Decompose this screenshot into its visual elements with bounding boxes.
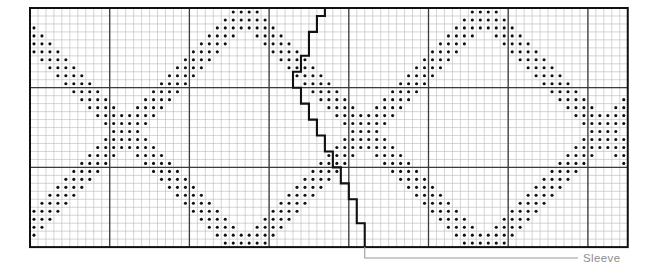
stitch-dot <box>280 226 283 229</box>
stitch-dot <box>176 186 179 189</box>
stitch-dot <box>471 34 474 37</box>
chart-background <box>0 0 646 277</box>
stitch-dot <box>550 178 553 181</box>
stitch-dot <box>136 114 139 117</box>
stitch-dot <box>136 146 139 149</box>
stitch-dot <box>471 18 474 21</box>
stitch-dot <box>614 154 617 157</box>
stitch-dot <box>479 234 482 237</box>
stitch-dot <box>192 66 195 69</box>
stitch-dot <box>415 90 418 93</box>
stitch-dot <box>112 130 115 133</box>
stitch-dot <box>96 98 99 101</box>
stitch-dot <box>439 210 442 213</box>
stitch-dot <box>72 82 75 85</box>
stitch-dot <box>32 210 35 213</box>
stitch-dot <box>543 178 546 181</box>
stitch-dot <box>431 66 434 69</box>
stitch-dot <box>248 18 251 21</box>
stitch-dot <box>88 170 91 173</box>
stitch-dot <box>550 194 553 197</box>
stitch-dot <box>335 106 338 109</box>
stitch-dot <box>535 74 538 77</box>
stitch-dot <box>527 210 530 213</box>
stitch-dot <box>590 122 593 125</box>
stitch-dot <box>64 194 67 197</box>
stitch-dot <box>622 146 625 149</box>
stitch-dot <box>375 130 378 133</box>
stitch-dot <box>88 106 91 109</box>
stitch-dot <box>200 42 203 45</box>
stitch-dot <box>64 66 67 69</box>
stitch-dot <box>120 146 123 149</box>
stitch-dot <box>511 210 514 213</box>
stitch-dot <box>383 154 386 157</box>
stitch-dot <box>56 66 59 69</box>
stitch-dot <box>224 226 227 229</box>
stitch-dot <box>351 130 354 133</box>
stitch-dot <box>463 242 466 245</box>
stitch-dot <box>136 106 139 109</box>
stitch-dot <box>311 186 314 189</box>
stitch-dot <box>112 114 115 117</box>
stitch-dot <box>56 74 59 77</box>
stitch-dot <box>327 154 330 157</box>
stitch-dot <box>511 50 514 53</box>
stitch-dot <box>359 114 362 117</box>
stitch-dot <box>264 42 267 45</box>
stitch-dot <box>622 122 625 125</box>
stitch-dot <box>311 170 314 173</box>
stitch-dot <box>391 98 394 101</box>
stitch-dot <box>319 186 322 189</box>
stitch-dot <box>120 138 123 141</box>
stitch-dot <box>303 194 306 197</box>
stitch-dot <box>168 186 171 189</box>
stitch-dot <box>598 130 601 133</box>
stitch-dot <box>431 210 434 213</box>
stitch-dot <box>160 154 163 157</box>
stitch-dot <box>550 66 553 69</box>
stitch-dot <box>399 106 402 109</box>
stitch-dot <box>319 82 322 85</box>
stitch-dot <box>32 234 35 237</box>
stitch-dot <box>96 106 99 109</box>
stitch-dot <box>264 34 267 37</box>
stitch-dot <box>367 130 370 133</box>
stitch-dot <box>168 162 171 165</box>
stitch-dot <box>519 34 522 37</box>
stitch-dot <box>343 162 346 165</box>
stitch-dot <box>335 98 338 101</box>
stitch-dot <box>582 106 585 109</box>
stitch-dot <box>40 42 43 45</box>
stitch-dot <box>423 58 426 61</box>
stitch-dot <box>622 114 625 117</box>
stitch-dot <box>407 186 410 189</box>
stitch-dot <box>184 186 187 189</box>
stitch-dot <box>527 50 530 53</box>
stitch-dot <box>590 138 593 141</box>
stitch-dot <box>176 74 179 77</box>
stitch-dot <box>407 90 410 93</box>
stitch-dot <box>232 234 235 237</box>
stitch-dot <box>264 26 267 29</box>
stitch-dot <box>582 162 585 165</box>
stitch-dot <box>48 202 51 205</box>
stitch-dot <box>295 186 298 189</box>
stitch-dot <box>248 234 251 237</box>
stitch-dot <box>503 34 506 37</box>
stitch-dot <box>256 26 259 29</box>
stitch-dot <box>487 242 490 245</box>
stitch-dot <box>319 162 322 165</box>
stitch-dot <box>391 146 394 149</box>
stitch-dot <box>303 202 306 205</box>
stitch-dot <box>224 242 227 245</box>
stitch-dot <box>327 178 330 181</box>
stitch-dot <box>240 26 243 29</box>
stitch-dot <box>343 106 346 109</box>
stitch-dot <box>32 42 35 45</box>
stitch-dot <box>503 218 506 221</box>
stitch-dot <box>168 178 171 181</box>
stitch-dot <box>280 202 283 205</box>
stitch-dot <box>256 234 259 237</box>
stitch-dot <box>574 162 577 165</box>
